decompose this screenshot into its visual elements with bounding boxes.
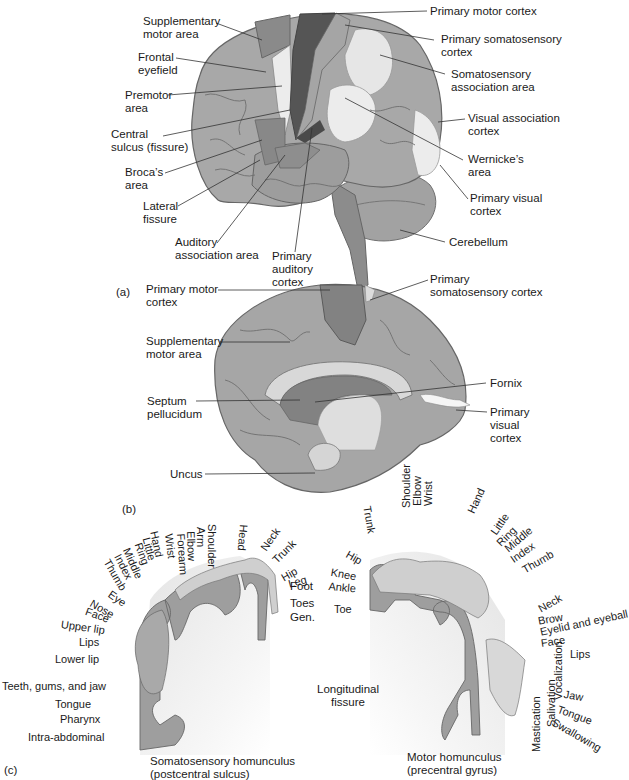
motor-section — [370, 552, 525, 755]
medial-brain-view — [215, 284, 470, 492]
label-lateral-fissure: Lateralfissure — [143, 200, 178, 226]
label-primary-motor-cortex-b: Primary motorcortex — [146, 283, 218, 309]
label-premotor-area: Premotorarea — [125, 89, 172, 115]
label-visual-association-cortex: Visual associationcortex — [468, 112, 560, 138]
label-supplementary-motor-area-a: Supplementarymotor area — [143, 15, 220, 41]
sensory-face-label-intra-abdominal: Intra-abdominal — [28, 731, 104, 743]
label-primary-motor-cortex-a: Primary motor cortex — [430, 5, 537, 18]
label-primary-somatosensory-cortex-b: Primarysomatosensory cortex — [430, 273, 543, 299]
label-central-sulcus: Centralsulcus (fissure) — [111, 128, 188, 154]
label-primary-auditory-cortex: Primaryauditorycortex — [272, 250, 313, 289]
label-primary-somatosensory-cortex-a: Primary somatosensorycortex — [441, 33, 562, 59]
label-brocas-area: Broca’sarea — [125, 166, 163, 192]
panel-b-tag: (b) — [122, 503, 136, 515]
motor-leg-label-ankle: Ankle — [328, 580, 356, 594]
panel-c-tag: (c) — [4, 764, 17, 776]
label-supplementary-motor-area-b: Supplementarymotor area — [146, 335, 223, 361]
motor-arc-label-wrist: Wrist — [422, 481, 434, 506]
label-primary-visual-cortex-b: Primaryvisualcortex — [490, 406, 530, 445]
label-frontal-eyefield: Frontaleyefield — [138, 51, 178, 77]
label-primary-visual-cortex-a: Primary visualcortex — [470, 192, 542, 218]
panel-a-tag: (a) — [116, 286, 130, 298]
motor-vertical-label-salivation: Salivation — [545, 679, 557, 727]
longitudinal-fissure-label: Longitudinalfissure — [317, 683, 379, 709]
sensory-label-gen: Gen. — [290, 611, 315, 624]
sensory-face-label-tongue: Tongue — [55, 698, 91, 710]
label-cerebellum: Cerebellum — [449, 236, 508, 249]
label-wernickes-area: Wernicke’sarea — [468, 153, 524, 179]
sensory-face-label-pharynx: Pharynx — [60, 713, 100, 725]
sensory-label-foot: Foot — [290, 580, 313, 593]
sensory-label-toes: Toes — [290, 597, 314, 610]
sensory-homunculus-caption: Somatosensory homunculus(postcentral sul… — [150, 755, 295, 780]
sensory-face-label-lips: Lips — [79, 636, 99, 648]
motor-face-label-lips: Lips — [570, 648, 590, 660]
label-uncus: Uncus — [170, 468, 203, 481]
sensory-face-label-lower-lip: Lower lip — [55, 653, 99, 665]
motor-leg-label-toe: Toe — [334, 603, 352, 615]
sensory-face-label-teeth-gums-and-jaw: Teeth, gums, and jaw — [2, 680, 106, 692]
label-auditory-association-area: Auditoryassociation area — [175, 236, 259, 262]
label-somatosensory-association-area: Somatosensoryassociation area — [451, 68, 535, 94]
motor-homunculus-caption: Motor homunculus(precentral gyrus) — [407, 751, 502, 777]
label-septum-pellucidum: Septumpellucidum — [147, 395, 202, 421]
sensory-arc-label-shoulder: Shoulder — [206, 524, 218, 568]
label-fornix: Fornix — [490, 377, 522, 390]
somatosensory-section — [135, 556, 278, 755]
sensory-arc-label-head: Head — [236, 524, 250, 551]
motor-vertical-label-mastication: Mastication — [530, 696, 542, 752]
